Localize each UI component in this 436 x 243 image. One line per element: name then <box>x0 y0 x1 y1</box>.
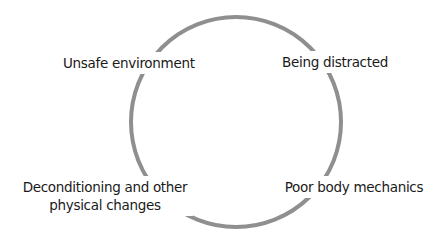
label-line: physical changes <box>20 196 190 214</box>
label-line: Unsafe environment <box>63 54 193 72</box>
label-line: Being distracted <box>282 53 386 71</box>
fall-risk-cycle-diagram: Unsafe environment Being distracted Deco… <box>0 0 436 243</box>
label-being-distracted: Being distracted <box>279 51 389 73</box>
label-unsafe-environment: Unsafe environment <box>60 52 196 74</box>
label-line: Deconditioning and other <box>20 178 190 196</box>
label-poor-body-mechanics: Poor body mechanics <box>281 176 427 198</box>
label-line: Poor body mechanics <box>284 178 424 196</box>
label-deconditioning: Deconditioning and other physical change… <box>17 176 193 216</box>
